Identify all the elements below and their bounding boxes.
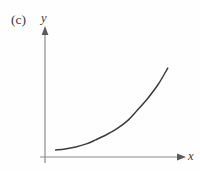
arrow-up-icon xyxy=(42,26,49,35)
exponential-curve xyxy=(56,68,168,150)
y-axis-group xyxy=(42,26,49,163)
x-axis-group xyxy=(40,154,186,161)
arrow-right-icon xyxy=(177,154,186,161)
figure-graphic xyxy=(0,0,200,171)
figure-panel: (c) y x xyxy=(0,0,200,171)
x-axis-label: x xyxy=(188,150,194,163)
y-axis-label: y xyxy=(41,12,47,25)
